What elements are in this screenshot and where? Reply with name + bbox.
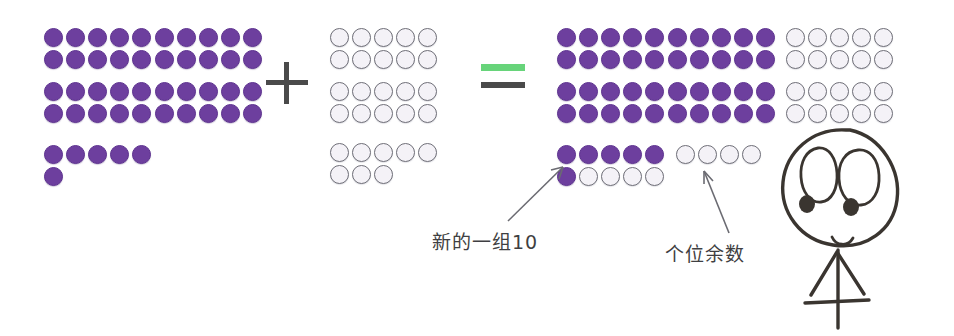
sum-ten-frame-2-chip <box>712 28 731 47</box>
sum-new-group-top-chip <box>579 145 598 164</box>
sum-ten-frame-1-chip <box>601 82 620 101</box>
addend-one-ten-frame-2-chip <box>243 82 262 101</box>
sum-ten-frame-2-chip <box>756 50 775 69</box>
addend-one-ten-frame-1-chip <box>132 104 151 123</box>
sum-ten-frame-2-chip <box>734 28 753 47</box>
addend-two-ten-frame-1-chip <box>330 28 349 47</box>
sum-ten-frame-3-chip <box>830 82 849 101</box>
addend-one-ten-frame-2-chip <box>155 28 174 47</box>
sum-ten-frame-2-chip <box>668 104 687 123</box>
addend-two-ten-frame-1-chip <box>330 82 349 101</box>
arrow-to-remainder <box>704 171 729 233</box>
sum-ten-frame-1-chip <box>579 28 598 47</box>
addend-one-ten-frame-2-chip <box>199 50 218 69</box>
sum-ten-frame-3-chip <box>830 28 849 47</box>
sum-ten-frame-3-chip <box>830 104 849 123</box>
sum-ten-frame-3-chip <box>808 82 827 101</box>
addend-one-ten-frame-2-chip <box>199 28 218 47</box>
sum-ten-frame-3-chip <box>786 104 805 123</box>
addend-one-ten-frame-2-chip <box>177 104 196 123</box>
addend-two-ten-frame-1-chip <box>396 28 415 47</box>
addend-one-ten-frame-2-chip <box>177 50 196 69</box>
addend-two-ten-frame-1-chip <box>374 50 393 69</box>
sum-ten-frame-1-chip <box>623 50 642 69</box>
addend-one-ten-frame-2-chip <box>155 50 174 69</box>
addend-two-ten-frame-1-chip <box>418 82 437 101</box>
label-new-group-of-ten: 新的一组10 <box>432 227 538 254</box>
sum-ten-frame-1-chip <box>579 104 598 123</box>
addend-one-ten-frame-1-chip <box>132 28 151 47</box>
sum-ten-frame-1-chip <box>645 28 664 47</box>
addend-one-ten-frame-1-chip <box>44 104 63 123</box>
sum-ten-frame-1-chip <box>579 50 598 69</box>
addend-two-ten-frame-1-chip <box>374 104 393 123</box>
addend-two-ten-frame-1-chip <box>374 28 393 47</box>
sum-ten-frame-2-chip <box>712 82 731 101</box>
sum-ten-frame-3-chip <box>874 104 893 123</box>
sum-new-group-top-chip <box>601 145 620 164</box>
addend-one-ten-frame-2-chip <box>221 28 240 47</box>
hand-drawn-face-figure <box>783 130 898 328</box>
plus-vertical-bar <box>284 62 289 104</box>
addend-one-ten-frame-2-chip <box>221 82 240 101</box>
addend-two-ones-chip <box>352 143 371 162</box>
sum-remainder-chip <box>742 145 761 164</box>
sum-ten-frame-1-chip <box>623 104 642 123</box>
sum-ten-frame-2-chip <box>690 50 709 69</box>
sum-new-group-top-chip <box>623 145 642 164</box>
addend-one-ten-frame-2-chip <box>243 28 262 47</box>
addend-two-ten-frame-1-chip <box>330 50 349 69</box>
addend-two-ones-chip <box>330 165 349 184</box>
addend-one-ten-frame-2-chip <box>177 82 196 101</box>
sum-new-group-top-chip <box>557 145 576 164</box>
addend-two-ten-frame-1-chip <box>418 28 437 47</box>
arrow-to-new-group <box>508 167 563 221</box>
sum-ten-frame-2-chip <box>690 104 709 123</box>
addend-one-ones-chip <box>66 145 85 164</box>
addend-one-ten-frame-2-chip <box>221 50 240 69</box>
sum-ten-frame-1-chip <box>645 50 664 69</box>
addend-two-ones-chip <box>374 143 393 162</box>
sum-remainder-chip <box>676 145 695 164</box>
sum-ten-frame-3-chip <box>808 28 827 47</box>
addend-one-ten-frame-1-chip <box>88 50 107 69</box>
sum-ten-frame-3-chip <box>874 28 893 47</box>
addend-one-ten-frame-1-chip <box>132 50 151 69</box>
addend-two-ten-frame-1-chip <box>396 82 415 101</box>
equals-operator <box>481 64 525 92</box>
addend-one-ones-chip <box>44 145 63 164</box>
addend-one-ten-frame-2-chip <box>199 82 218 101</box>
sum-ten-frame-3-chip <box>852 50 871 69</box>
sum-ten-frame-1-chip <box>623 82 642 101</box>
addend-two-ones-chip <box>330 143 349 162</box>
sum-ten-frame-1-chip <box>601 50 620 69</box>
addend-one-ten-frame-2-chip <box>155 82 174 101</box>
addend-two-ones-chip <box>418 143 437 162</box>
addend-one-ten-frame-1-chip <box>88 28 107 47</box>
addend-two-ten-frame-1-chip <box>352 82 371 101</box>
addend-one-ten-frame-1-chip <box>66 50 85 69</box>
sum-ten-frame-3-chip <box>852 82 871 101</box>
addend-one-ten-frame-1-chip <box>132 82 151 101</box>
addend-two-ten-frame-1-chip <box>374 82 393 101</box>
sum-ten-frame-2-chip <box>734 104 753 123</box>
sum-ten-frame-3-chip <box>786 50 805 69</box>
sum-ten-frame-3-chip <box>786 28 805 47</box>
sum-ten-frame-1-chip <box>623 28 642 47</box>
sum-new-group-top-chip <box>645 145 664 164</box>
sum-ten-frame-2-chip <box>668 82 687 101</box>
addend-two-ten-frame-1-chip <box>418 50 437 69</box>
addend-one-ten-frame-2-chip <box>177 28 196 47</box>
sum-new-group-bottom-chip <box>623 167 642 186</box>
sum-remainder-chip <box>720 145 739 164</box>
sum-new-group-bottom-chip <box>601 167 620 186</box>
addend-one-ones-chip <box>44 167 63 186</box>
addend-one-ones-chip <box>110 145 129 164</box>
sum-ten-frame-1-chip <box>601 104 620 123</box>
addend-one-ten-frame-1-chip <box>110 28 129 47</box>
sum-new-group-bottom-chip <box>579 167 598 186</box>
addend-one-ten-frame-2-chip <box>221 104 240 123</box>
addend-one-ten-frame-2-chip <box>199 104 218 123</box>
sum-ten-frame-2-chip <box>712 104 731 123</box>
addend-one-ten-frame-1-chip <box>44 50 63 69</box>
